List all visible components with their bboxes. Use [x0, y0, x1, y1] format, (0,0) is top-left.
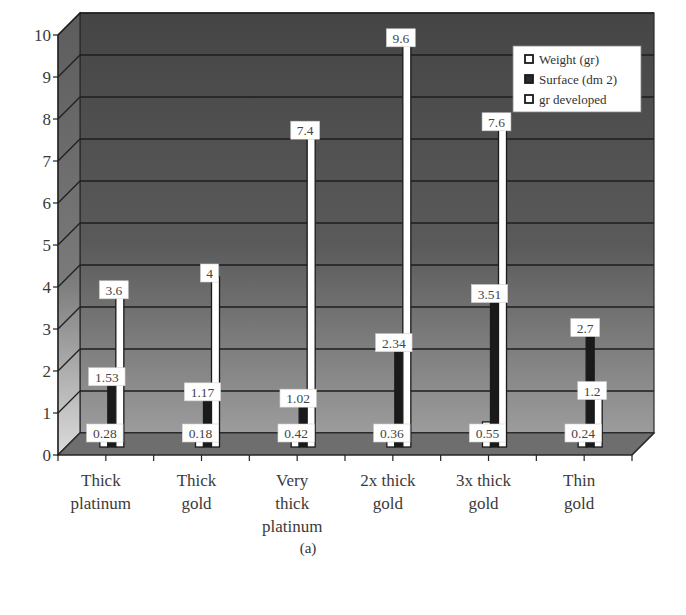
value-label-surface: 3.51: [478, 287, 502, 302]
value-label-surface: 2.34: [382, 336, 406, 351]
value-label-surface: 1.53: [95, 370, 119, 385]
value-label-surface: 1.02: [286, 391, 310, 406]
legend-label: Weight (gr): [539, 52, 599, 67]
y-tick-label: 1: [43, 404, 52, 423]
value-label-weight: 0.24: [571, 426, 595, 441]
legend-label: gr developed: [539, 92, 607, 107]
y-tick-label: 2: [43, 362, 52, 381]
category-label: gold: [373, 494, 404, 513]
category-label: gold: [181, 494, 212, 513]
legend-swatch: [525, 55, 533, 63]
category-label: platinum: [262, 517, 322, 536]
value-label-developed: 9.6: [392, 31, 409, 46]
value-label-surface: 2.7: [577, 321, 594, 336]
category-label: Thin: [563, 471, 596, 490]
category-labels: ThickplatinumThickgoldVerythickplatinum2…: [71, 471, 596, 536]
y-tick-label: 10: [34, 26, 51, 45]
category-label: Thick: [177, 471, 217, 490]
floor: [58, 433, 654, 455]
value-label-surface: 1.17: [191, 385, 215, 400]
value-label-developed: 1.2: [584, 384, 601, 399]
legend-swatch: [525, 75, 533, 83]
value-label-weight: 0.36: [380, 426, 404, 441]
value-label-developed: 4: [206, 266, 213, 281]
y-tick-label: 7: [43, 152, 52, 171]
category-label: Very: [276, 471, 309, 490]
y-tick-label: 5: [43, 236, 52, 255]
bar-2: [403, 42, 411, 447]
category-label: 3x thick: [456, 471, 512, 490]
y-tick-label: 8: [43, 110, 52, 129]
value-label-developed: 7.6: [488, 115, 505, 130]
legend-swatch: [525, 95, 533, 103]
figure-caption: (a): [300, 540, 317, 557]
value-label-weight: 0.28: [93, 426, 117, 441]
category-label: platinum: [71, 494, 131, 513]
category-label: Thick: [81, 471, 121, 490]
chart: 012345678910 0.281.533.60.181.1740.421.0…: [0, 0, 686, 615]
legend-label: Surface (dm 2): [539, 72, 617, 87]
category-label: 2x thick: [360, 471, 416, 490]
value-label-developed: 3.6: [105, 283, 122, 298]
value-label-weight: 0.42: [284, 426, 308, 441]
y-tick-label: 0: [43, 446, 52, 465]
value-label-weight: 0.55: [476, 426, 500, 441]
bar-2: [212, 277, 220, 447]
y-tick-label: 6: [43, 194, 52, 213]
value-label-developed: 7.4: [297, 123, 314, 138]
value-label-weight: 0.18: [189, 426, 213, 441]
category-label: thick: [275, 494, 309, 513]
category-label: gold: [564, 494, 595, 513]
category-label: gold: [468, 494, 499, 513]
y-tick-label: 9: [43, 68, 52, 87]
y-tick-label: 3: [43, 320, 52, 339]
legend: Weight (gr)Surface (dm 2)gr developed: [513, 46, 641, 112]
plot-floor: [58, 433, 654, 455]
y-tick-label: 4: [43, 278, 52, 297]
